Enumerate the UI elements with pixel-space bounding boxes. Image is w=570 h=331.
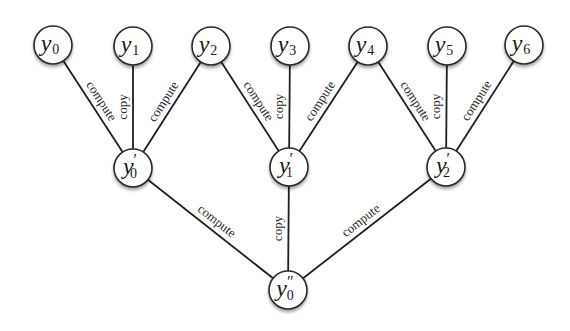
edge-y2-y0p: [133, 46, 211, 168]
node-y4: y4: [349, 27, 387, 65]
node-y6: y6: [505, 26, 543, 64]
node-y5: y5: [428, 27, 466, 65]
edge-label-copy: copy: [270, 215, 285, 241]
node-label: y′2: [434, 150, 450, 180]
node-y0pp: y″0: [269, 271, 307, 309]
node-label: y″0: [274, 273, 293, 303]
node-y1p: y′1: [270, 148, 308, 186]
edge-y2p-y0pp: [288, 167, 446, 290]
node-y0: y0: [34, 26, 72, 64]
edge-label-copy: copy: [428, 93, 443, 119]
node-y0p: y′0: [114, 149, 152, 187]
node-y3: y3: [271, 27, 309, 65]
edge-label-copy: copy: [271, 93, 286, 119]
edge-y4-y1p: [289, 46, 368, 167]
edge-y6-y2p: [446, 45, 524, 167]
node-label: y′1: [277, 150, 293, 180]
edge-label-copy: copy: [115, 94, 130, 120]
node-y2p: y′2: [427, 148, 465, 186]
edge-y0p-y0pp: [133, 168, 288, 290]
node-y2: y2: [192, 27, 230, 65]
node-y1: y1: [114, 27, 152, 65]
node-label: y′0: [121, 151, 137, 181]
aggregation-tree-diagram: computecopycomputecomputecopycomputecomp…: [0, 0, 570, 331]
